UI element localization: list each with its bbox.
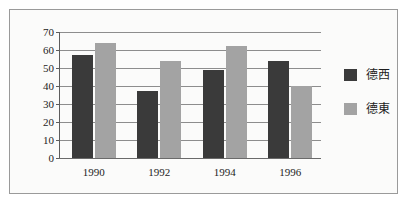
bar	[72, 55, 93, 158]
bar	[95, 43, 116, 158]
bar-group	[199, 32, 251, 158]
x-axis-tick-label: 1996	[264, 167, 316, 178]
y-axis-tick-label: 70	[43, 27, 54, 38]
x-axis-tick-label: 1994	[199, 167, 251, 178]
y-axis-tick-label: 30	[43, 99, 54, 110]
bar	[137, 91, 158, 158]
bar-group	[264, 32, 316, 158]
legend-color-swatch	[344, 103, 357, 115]
legend-label: 德東	[366, 103, 390, 115]
x-axis-tick-label: 1992	[133, 167, 185, 178]
y-axis-tick-label: 60	[43, 45, 54, 56]
bars-layer	[59, 32, 321, 159]
bar	[203, 70, 224, 158]
legend-label: 德西	[366, 69, 390, 81]
bar-group	[133, 32, 185, 158]
y-axis-tick-label: 20	[43, 117, 54, 128]
legend-color-swatch	[344, 69, 357, 81]
plot-area: 010203040506070 1990199219941996	[59, 32, 321, 159]
bar-group	[68, 32, 120, 158]
y-axis-tick-label: 50	[43, 63, 54, 74]
x-axis-tick-label: 1990	[68, 167, 120, 178]
y-axis-tick-label: 40	[43, 81, 54, 92]
bar	[160, 61, 181, 158]
chart-legend: 德西德東	[344, 68, 404, 136]
bar	[291, 86, 312, 158]
y-axis-tick-label: 10	[43, 135, 54, 146]
bar	[226, 46, 247, 158]
bar	[268, 61, 289, 158]
legend-item: 德西	[344, 68, 404, 82]
legend-item: 德東	[344, 102, 404, 116]
y-axis-tick-label: 0	[49, 153, 55, 164]
chart-frame: 010203040506070 1990199219941996 德西德東	[9, 9, 398, 194]
